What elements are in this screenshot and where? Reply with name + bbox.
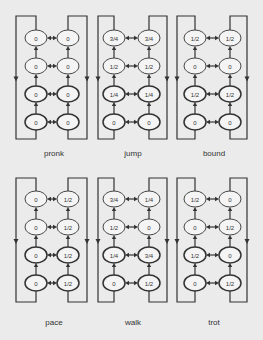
up-arrow-icon (34, 46, 38, 50)
up-arrow-icon (193, 207, 197, 211)
phase-label: 3/4 (145, 253, 154, 259)
phase-label: 3/4 (110, 197, 119, 203)
up-arrow-icon (193, 46, 197, 50)
left-arrow-icon (206, 197, 210, 201)
phase-label: 1/2 (64, 281, 73, 287)
up-arrow-icon (34, 235, 38, 239)
up-arrow-icon (66, 74, 70, 78)
right-arrow-icon (134, 197, 138, 201)
right-arrow-icon (215, 64, 219, 68)
up-arrow-icon (147, 235, 151, 239)
phase-label: 1/2 (191, 253, 200, 259)
left-arrow-icon (206, 36, 210, 40)
left-arrow-icon (125, 197, 129, 201)
down-arrow-icon (96, 239, 101, 244)
gait-label: trot (208, 318, 220, 327)
left-arrow-icon (125, 225, 129, 229)
phase-label: 1/4 (145, 197, 154, 203)
phase-label: 1/2 (191, 36, 200, 42)
down-arrow-icon (245, 239, 250, 244)
left-arrow-icon (206, 64, 210, 68)
up-arrow-icon (228, 207, 232, 211)
left-arrow-icon (47, 64, 51, 68)
up-arrow-icon (66, 46, 70, 50)
gait-label: pronk (44, 149, 65, 158)
gait-label: pace (45, 318, 63, 327)
phase-label: 1/2 (64, 197, 73, 203)
phase-label: 1/2 (110, 225, 119, 231)
right-arrow-icon (215, 197, 219, 201)
left-arrow-icon (206, 225, 210, 229)
up-arrow-icon (228, 74, 232, 78)
down-arrow-icon (165, 77, 170, 82)
up-arrow-icon (34, 207, 38, 211)
phase-label: 1/4 (110, 92, 119, 98)
down-arrow-icon (165, 239, 170, 244)
phase-label: 1/4 (145, 92, 154, 98)
up-arrow-icon (66, 235, 70, 239)
down-arrow-icon (245, 77, 250, 82)
down-arrow-icon (14, 239, 19, 244)
up-arrow-icon (112, 46, 116, 50)
right-arrow-icon (215, 36, 219, 40)
down-arrow-icon (14, 77, 19, 82)
phase-label: 1/2 (145, 64, 154, 70)
phase-label: 1/2 (191, 197, 200, 203)
panel-bound: 1/21/2001/21/200bound (175, 16, 250, 158)
phase-label: 1/2 (64, 253, 73, 259)
phase-label: 1/2 (226, 281, 235, 287)
right-arrow-icon (134, 64, 138, 68)
panel-trot: 1/2001/21/2001/2trot (175, 178, 250, 327)
right-arrow-icon (53, 64, 57, 68)
panel-walk: 3/41/41/201/43/401/2walk (96, 178, 170, 327)
left-arrow-icon (47, 197, 51, 201)
phase-label: 1/2 (226, 92, 235, 98)
up-arrow-icon (193, 235, 197, 239)
phase-label: 1/2 (110, 64, 119, 70)
phase-label: 1/2 (145, 281, 154, 287)
up-arrow-icon (112, 235, 116, 239)
left-arrow-icon (47, 36, 51, 40)
right-arrow-icon (134, 36, 138, 40)
gait-diagram: 00000000pronk3/43/41/21/21/41/400jump1/2… (0, 0, 263, 340)
up-arrow-icon (228, 46, 232, 50)
gait-label: walk (124, 318, 142, 327)
up-arrow-icon (228, 235, 232, 239)
up-arrow-icon (147, 74, 151, 78)
down-arrow-icon (175, 239, 180, 244)
phase-label: 1/4 (110, 253, 119, 259)
right-arrow-icon (53, 36, 57, 40)
panel-jump: 3/43/41/21/21/41/400jump (96, 16, 170, 158)
panel-pace: 01/201/201/201/2pace (14, 178, 90, 327)
down-arrow-icon (175, 77, 180, 82)
right-arrow-icon (134, 225, 138, 229)
up-arrow-icon (112, 207, 116, 211)
left-arrow-icon (47, 225, 51, 229)
left-arrow-icon (125, 64, 129, 68)
down-arrow-icon (85, 239, 90, 244)
panel-pronk: 00000000pronk (14, 16, 90, 158)
up-arrow-icon (34, 74, 38, 78)
phase-label: 1/2 (191, 92, 200, 98)
down-arrow-icon (85, 77, 90, 82)
left-arrow-icon (125, 36, 129, 40)
gait-label: jump (123, 149, 142, 158)
up-arrow-icon (193, 74, 197, 78)
up-arrow-icon (147, 207, 151, 211)
right-arrow-icon (53, 225, 57, 229)
up-arrow-icon (112, 74, 116, 78)
phase-label: 1/2 (226, 36, 235, 42)
up-arrow-icon (147, 46, 151, 50)
gait-label: bound (203, 149, 225, 158)
up-arrow-icon (66, 207, 70, 211)
phase-label: 1/2 (64, 225, 73, 231)
right-arrow-icon (215, 225, 219, 229)
phase-label: 1/2 (226, 225, 235, 231)
right-arrow-icon (53, 197, 57, 201)
phase-label: 3/4 (145, 36, 154, 42)
phase-label: 3/4 (110, 36, 119, 42)
down-arrow-icon (96, 77, 101, 82)
